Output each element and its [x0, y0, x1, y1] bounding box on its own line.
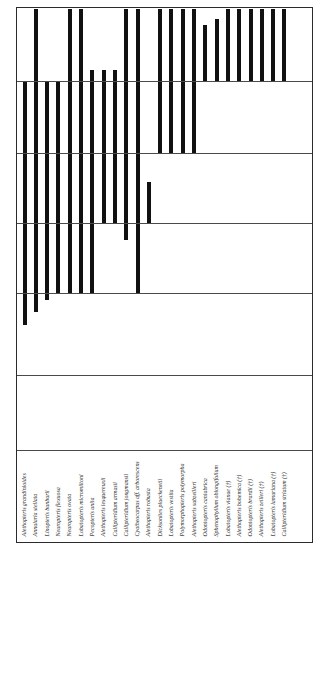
- range-bar: [102, 70, 106, 223]
- range-bars-layer: [17, 8, 312, 542]
- zone-boundary-line-5: [17, 375, 312, 376]
- range-bar: [90, 70, 94, 293]
- range-bar: [79, 9, 83, 293]
- zone-boundary-line-1: [17, 81, 312, 82]
- chart-frame: Alethopteris grandinioidesAnnularia stel…: [16, 7, 313, 543]
- range-bar: [249, 9, 253, 81]
- zone-boundary-line-3: [17, 223, 312, 224]
- range-bar: [282, 9, 286, 81]
- range-bar: [56, 81, 60, 294]
- zone-boundary-line-4: [17, 293, 312, 294]
- range-bar: [113, 70, 117, 223]
- range-bar: [147, 182, 151, 224]
- zone-boundary-line-2: [17, 153, 312, 154]
- range-bar: [203, 25, 207, 81]
- zone-boundary-line-6: [17, 450, 312, 451]
- range-bar: [68, 9, 72, 293]
- range-bar: [226, 9, 230, 81]
- range-bar: [237, 9, 241, 81]
- range-bar: [136, 9, 140, 293]
- range-bar: [34, 9, 38, 312]
- range-bar: [23, 81, 27, 326]
- stratigraphic-range-chart: Alethopteris grandinioidesAnnularia stel…: [0, 0, 324, 685]
- range-bar: [260, 9, 264, 81]
- range-bar: [124, 9, 128, 240]
- range-bar: [45, 81, 49, 300]
- range-bar: [215, 19, 219, 81]
- range-bar: [271, 9, 275, 81]
